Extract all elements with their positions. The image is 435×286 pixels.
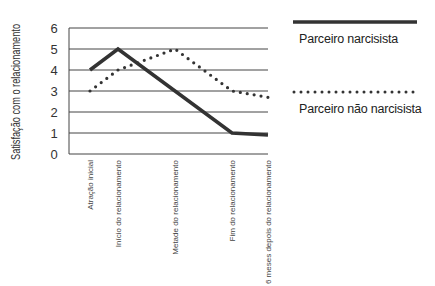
- y-axis-ticks: 0123456: [50, 21, 57, 162]
- x-tick-label: Metade do relacionamento: [171, 159, 180, 254]
- y-tick-label: 3: [50, 84, 57, 99]
- y-tick-label: 2: [50, 105, 57, 120]
- y-tick-label: 1: [50, 126, 57, 141]
- series-line-non-narcissist: [90, 49, 268, 97]
- x-tick-label: Atração inicial: [86, 160, 95, 210]
- y-tick-label: 5: [50, 42, 57, 57]
- x-tick-label: Início do relacionamento: [114, 159, 123, 247]
- y-tick-label: 0: [50, 147, 57, 162]
- legend-label-non-narcissist: Parceiro não narcisista: [299, 102, 422, 116]
- y-tick-label: 6: [50, 21, 57, 36]
- x-tick-label: 6 meses depois do relacionamento: [264, 159, 273, 284]
- x-tick-label: Fim do relacionamento: [228, 159, 237, 241]
- x-axis-ticks: Atração inicialInício do relacionamentoM…: [86, 159, 273, 284]
- y-tick-label: 4: [50, 63, 57, 78]
- y-axis-label: Satisfação com o relacionamento: [8, 24, 23, 160]
- data-series: [90, 49, 268, 135]
- legend-label-narcissist: Parceiro narcisista: [299, 32, 398, 46]
